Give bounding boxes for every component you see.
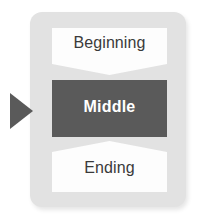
- step-stack: Beginning Middle Ending: [52, 28, 167, 192]
- triangle-right-icon: [10, 93, 33, 129]
- diagram-canvas: Beginning Middle Ending: [0, 0, 201, 218]
- step-ending-label: Ending: [52, 159, 167, 177]
- step-middle-label: Middle: [52, 98, 167, 116]
- step-middle[interactable]: Middle: [52, 80, 167, 137]
- step-ending[interactable]: Ending: [52, 141, 167, 192]
- step-beginning[interactable]: Beginning: [52, 28, 167, 75]
- step-beginning-label: Beginning: [52, 34, 167, 52]
